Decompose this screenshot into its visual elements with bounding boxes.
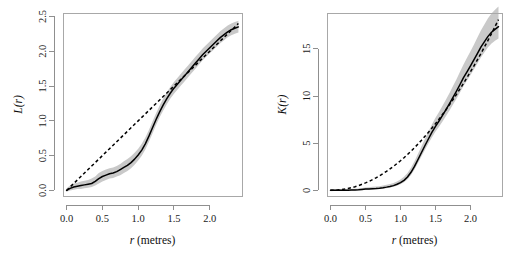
y-tick-label: 5 xyxy=(301,141,312,146)
x-tick-label: 1.5 xyxy=(429,213,442,224)
y-tick-label: 0.5 xyxy=(37,149,48,162)
y-tick-label: 1.5 xyxy=(37,79,48,92)
theoretical-curve xyxy=(67,23,239,190)
y-tick-label: 2.5 xyxy=(37,10,48,23)
x-axis-title: r (metres) xyxy=(392,234,438,247)
x-tick-label: 1.0 xyxy=(132,213,145,224)
l-function-chart: 0.00.51.01.52.00.00.51.01.52.02.5r (metr… xyxy=(0,0,256,256)
y-axis-title: K(r) xyxy=(276,94,289,115)
x-tick-label: 0.0 xyxy=(60,213,73,224)
y-tick-label: 0.0 xyxy=(37,184,48,197)
y-tick-label: 0 xyxy=(301,188,312,193)
x-tick-label: 2.0 xyxy=(203,213,216,224)
y-tick-label: 10 xyxy=(301,91,312,102)
x-tick-label: 1.5 xyxy=(167,213,180,224)
k-function-chart: 0.00.51.01.52.0051015r (metres)K(r) xyxy=(255,0,511,256)
y-tick-label: 1.0 xyxy=(37,114,48,127)
chart-panel-right: 0.00.51.01.52.0051015r (metres)K(r) xyxy=(255,0,511,256)
y-tick-label: 2.0 xyxy=(37,45,48,58)
x-tick-label: 0.5 xyxy=(96,213,109,224)
x-axis-title: r (metres) xyxy=(130,234,176,247)
y-tick-label: 15 xyxy=(301,44,312,55)
x-tick-label: 0.0 xyxy=(324,213,337,224)
chart-panel-left: 0.00.51.01.52.00.00.51.01.52.02.5r (metr… xyxy=(0,0,256,256)
x-tick-label: 0.5 xyxy=(359,213,372,224)
simulation-envelope-band xyxy=(331,6,499,191)
y-axis-title: L(r) xyxy=(12,95,25,115)
x-tick-label: 2.0 xyxy=(464,213,477,224)
figure-root: 0.00.51.01.52.00.00.51.01.52.02.5r (metr… xyxy=(0,0,511,256)
x-tick-label: 1.0 xyxy=(394,213,407,224)
